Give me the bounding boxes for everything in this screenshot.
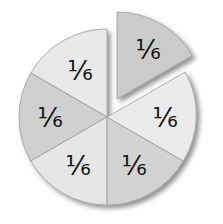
pie-svg: ⅙ ⅙ ⅙ ⅙ ⅙ ⅙: [0, 0, 223, 224]
slice-label-right: ⅙: [152, 103, 177, 133]
slice-label-bottom-left: ⅙: [65, 151, 90, 181]
fraction-pie-diagram: ⅙ ⅙ ⅙ ⅙ ⅙ ⅙: [0, 0, 223, 224]
slice-label-left: ⅙: [37, 103, 62, 133]
removed-slice-label: ⅙: [135, 35, 160, 65]
slice-label-bottom-right: ⅙: [121, 151, 146, 181]
slice-label-top-left: ⅙: [67, 56, 92, 86]
